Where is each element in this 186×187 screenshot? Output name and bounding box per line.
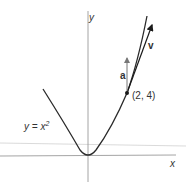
x-axis-label: x bbox=[169, 158, 176, 169]
point-label: (2, 4) bbox=[132, 90, 155, 101]
velocity-vector bbox=[127, 25, 152, 93]
diagram-canvas: (2, 4) v a y x y = x2 bbox=[0, 0, 186, 187]
curve-label: y = x2 bbox=[23, 120, 49, 132]
parabola-curve bbox=[43, 16, 147, 155]
velocity-label: v bbox=[148, 40, 154, 51]
acceleration-label: a bbox=[120, 70, 126, 81]
curve-label-exponent: 2 bbox=[44, 120, 49, 127]
y-axis-label: y bbox=[88, 12, 95, 23]
faint-horizontal-line bbox=[0, 143, 186, 146]
parabola-vector-diagram: (2, 4) v a y x y = x2 bbox=[0, 0, 186, 187]
curve-label-base: y = x bbox=[23, 121, 46, 132]
point-marker bbox=[125, 91, 129, 95]
